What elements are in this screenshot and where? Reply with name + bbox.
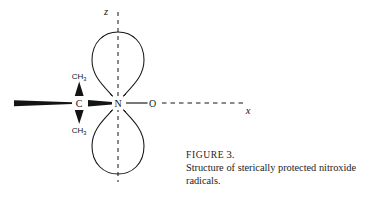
bond-wedge-methyl-upper	[75, 82, 84, 97]
axis-label-x: x	[245, 105, 251, 116]
p-orbital-lobe-upper	[92, 32, 144, 102]
methyl-lower-subscript: 3	[83, 130, 86, 136]
figure-caption-line-1: Structure of sterically protected nitrox…	[186, 162, 390, 174]
bond-wedge-c-to-n	[88, 100, 112, 106]
figure-caption-line-2: radicals.	[186, 175, 390, 187]
atom-label-carbon: C	[76, 98, 83, 109]
figure-caption: FIGURE3. Structure of sterically protect…	[186, 148, 390, 188]
methyl-lower-text: CH	[72, 126, 84, 135]
atom-label-oxygen: O	[149, 98, 156, 109]
figure-caption-label-line: FIGURE3.	[186, 148, 390, 161]
methyl-upper-subscript: 3	[83, 76, 86, 82]
figure-number: 3.	[224, 148, 234, 160]
methyl-upper-text: CH	[72, 72, 84, 81]
atom-label-nitrogen: N	[114, 98, 121, 109]
methyl-label-upper: CH3	[72, 72, 87, 82]
p-orbital-lobe-lower	[92, 104, 144, 174]
methyl-label-lower: CH3	[72, 126, 87, 136]
bond-wedge-methyl-lower	[75, 110, 84, 125]
bond-wedge-left-horizontal	[14, 100, 72, 106]
figure-label-word: FIGURE	[186, 149, 224, 160]
figure-container: C N O CH3 CH3 z x FIGURE3. Structure of …	[0, 0, 392, 198]
axis-label-z: z	[103, 6, 108, 17]
